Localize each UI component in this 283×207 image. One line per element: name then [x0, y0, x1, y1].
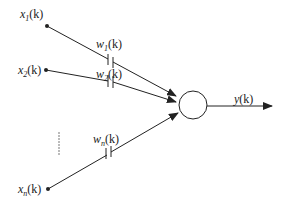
input-label-xn: xn(k) — [18, 183, 41, 198]
input-label-x2: x2(k) — [18, 64, 41, 79]
weight-label-w1: w1(k) — [96, 38, 122, 53]
output-label-y: y(k) — [234, 93, 253, 105]
weight-label-wn: wn(k) — [93, 133, 119, 148]
ellipsis-icon — [58, 132, 59, 154]
input-label-x1: x1(k) — [20, 8, 43, 23]
weight-label-w2: w2(k) — [96, 68, 122, 83]
input-line-n — [46, 113, 178, 191]
input-line-1 — [45, 24, 176, 96]
neuron-node-icon — [179, 91, 207, 119]
